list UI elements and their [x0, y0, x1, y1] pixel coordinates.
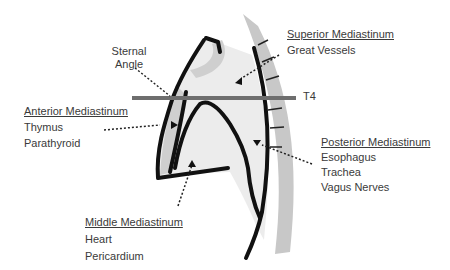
- t4-label: T4: [303, 90, 316, 103]
- superior-item: Great Vessels: [287, 44, 394, 57]
- posterior-item: Trachea: [321, 166, 430, 179]
- anterior-mediastinum-group: Anterior Mediastinum Thymus Parathyroid: [24, 105, 128, 150]
- sternal-angle-line2: Angle: [104, 58, 154, 71]
- sternal-angle-leader: [135, 68, 170, 96]
- anterior-item: Thymus: [24, 121, 128, 134]
- posterior-mediastinum-group: Posterior Mediastinum Esophagus Trachea …: [321, 136, 430, 194]
- posterior-item: Vagus Nerves: [321, 181, 430, 194]
- middle-mediastinum-group: Middle Mediastinum Heart Pericardium: [85, 216, 183, 263]
- middle-mediastinum-title: Middle Mediastinum: [85, 216, 183, 229]
- posterior-mediastinum-title: Posterior Mediastinum: [321, 136, 430, 149]
- anterior-item: Parathyroid: [24, 137, 128, 150]
- superior-mediastinum-group: Superior Mediastinum Great Vessels: [287, 28, 394, 57]
- middle-item: Heart: [85, 233, 183, 246]
- sternal-angle-label: Sternal Angle: [104, 45, 154, 71]
- posterior-item: Esophagus: [321, 151, 430, 164]
- anterior-mediastinum-title: Anterior Mediastinum: [24, 105, 128, 118]
- superior-mediastinum-title: Superior Mediastinum: [287, 28, 394, 41]
- sternal-angle-line1: Sternal: [104, 45, 154, 58]
- middle-item: Pericardium: [85, 250, 183, 263]
